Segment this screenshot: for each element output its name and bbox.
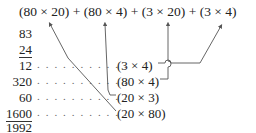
connector-lines	[0, 0, 256, 133]
arrow-20x3-to-80x4	[105, 24, 116, 95]
arrow-80x4-to-3x20	[160, 24, 168, 79]
arrow-3x4-to-3x4	[158, 26, 221, 63]
arrow-20x80-to-80x20	[50, 24, 116, 111]
